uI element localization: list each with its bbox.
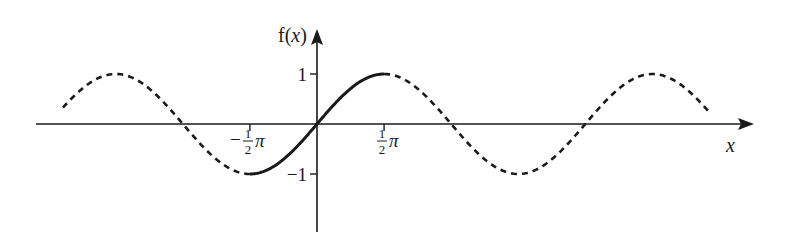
svg-text:1: 1 bbox=[379, 126, 386, 141]
x-tick-label: 12π bbox=[377, 126, 399, 157]
y-tick-label: −1 bbox=[287, 164, 307, 185]
svg-text:1: 1 bbox=[245, 126, 252, 141]
x-axis-label: x bbox=[725, 134, 735, 156]
svg-text:2: 2 bbox=[379, 142, 386, 157]
svg-text:2: 2 bbox=[245, 142, 252, 157]
sine-plot: f(x) x −12π12π1−1 bbox=[0, 0, 789, 246]
x-tick-label: −12π bbox=[230, 126, 265, 157]
y-axis-label: f(x) bbox=[278, 24, 307, 47]
svg-text:π: π bbox=[255, 130, 265, 151]
y-tick-label: 1 bbox=[298, 64, 308, 85]
svg-text:π: π bbox=[389, 130, 399, 151]
svg-text:−: − bbox=[230, 129, 241, 150]
